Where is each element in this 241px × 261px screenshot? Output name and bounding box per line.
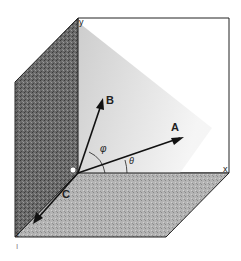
vector-label-B: B [106, 95, 114, 106]
vector-label-C: C [62, 189, 70, 200]
angle-label-phi: φ [100, 144, 107, 154]
axis-label-x: x [223, 165, 228, 174]
axis-label-z: z [16, 231, 20, 238]
vector-label-A: A [171, 122, 179, 133]
footer-mark: I [16, 243, 18, 251]
axis-label-y: y [79, 18, 84, 27]
angle-label-theta: θ [129, 157, 134, 166]
origin-circle [70, 167, 76, 173]
vector-diagram [0, 0, 241, 261]
